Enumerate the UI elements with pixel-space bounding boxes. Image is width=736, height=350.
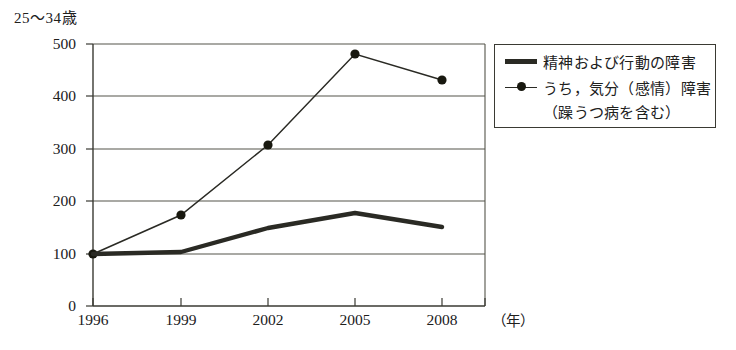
legend-label-mental-behavioural: 精神および行動の障害	[543, 51, 696, 72]
x-tick-label-2008: 2008	[407, 311, 477, 329]
legend: 精神および行動の障害 うち，気分（感情）障害 （躁うつ病を含む）	[494, 44, 716, 128]
legend-label-mood-disorders: うち，気分（感情）障害	[543, 77, 711, 98]
dot-line-key-icon	[503, 77, 543, 97]
y-tick-label-300: 300	[14, 140, 76, 158]
y-tick-marks	[86, 44, 93, 306]
legend-item-mood-disorders: うち，気分（感情）障害	[495, 74, 715, 100]
x-tick-marks	[93, 298, 485, 306]
y-tick-label-400: 400	[14, 87, 76, 105]
legend-item-mental-behavioural: 精神および行動の障害	[495, 48, 715, 74]
y-tick-label-200: 200	[14, 192, 76, 210]
x-axis-unit-label: （年）	[492, 309, 534, 330]
thick-line-key-icon	[503, 51, 543, 71]
series-mental-behavioural-line	[93, 213, 442, 254]
legend-label-mood-disorders-cont: （躁うつ病を含む）	[543, 101, 681, 122]
y-tick-label-500: 500	[14, 35, 76, 53]
x-tick-label-1996: 1996	[58, 311, 128, 329]
legend-item-mood-disorders-cont: （躁うつ病を含む）	[495, 98, 715, 124]
x-tick-label-2002: 2002	[233, 311, 303, 329]
y-tick-label-100: 100	[14, 245, 76, 263]
chart-figure: 25〜34歳	[0, 0, 736, 350]
series-mood-disorders-line	[93, 54, 442, 254]
x-tick-label-2005: 2005	[320, 311, 390, 329]
x-tick-label-1999: 1999	[146, 311, 216, 329]
